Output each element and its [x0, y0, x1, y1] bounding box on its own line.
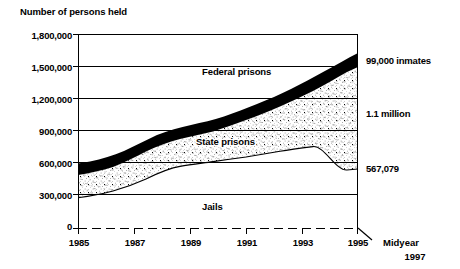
- series-label-jails: Jails: [202, 201, 223, 212]
- x-tick-label-1993: 1993: [282, 237, 324, 248]
- x-axis-end-label-year: 1997: [383, 251, 447, 262]
- annotation-state-prisons-value: 1.1 million: [366, 108, 410, 119]
- annotation-jails-value: 567,079: [366, 163, 399, 174]
- annotation-federal-prisons-value: 99,000 inmates: [366, 55, 431, 66]
- x-tick-label-1989: 1989: [170, 237, 212, 248]
- x-tick-label-1995: 1995: [337, 237, 379, 248]
- y-axis-ticks: [73, 35, 78, 229]
- x-tick-label-1991: 1991: [226, 237, 268, 248]
- x-axis-end-label-midyear: Midyear: [383, 237, 447, 248]
- x-tick-label-1985: 1985: [58, 237, 100, 248]
- plot-area: [0, 0, 460, 269]
- series-label-state-prisons: State prisons: [196, 136, 255, 147]
- x-tick-label-1987: 1987: [114, 237, 156, 248]
- chart-figure: Number of persons held 1,800,000 1,500,0…: [0, 0, 460, 269]
- series-label-federal-prisons: Federal prisons: [202, 66, 271, 77]
